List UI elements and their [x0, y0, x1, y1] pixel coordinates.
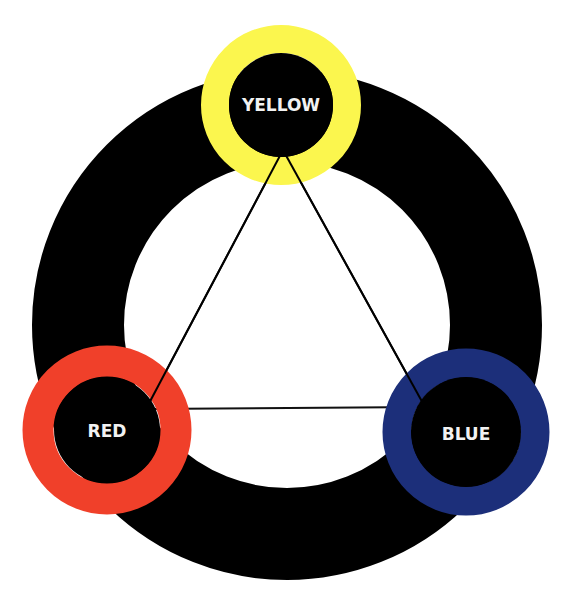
red-node: RED: [38, 361, 176, 499]
blue-label: BLUE: [442, 424, 491, 444]
blue-node: BLUE: [397, 363, 535, 501]
red-label: RED: [88, 421, 127, 441]
yellow-label: YELLOW: [241, 95, 320, 115]
yellow-node: YELLOW: [215, 39, 347, 171]
color-wheel-diagram: YELLOW RED BLUE: [0, 0, 570, 599]
